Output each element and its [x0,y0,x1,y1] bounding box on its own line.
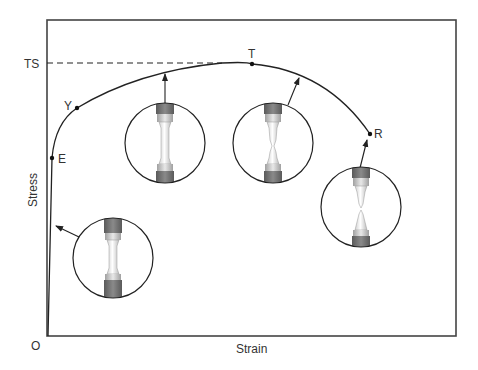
specimen-gauge [159,122,171,164]
bottom-grip [264,171,282,186]
specimen-gauge [107,240,119,274]
specimen-upper-fragment [355,186,367,208]
bottom-grip [156,171,174,186]
bottom-shoulder [265,164,281,171]
bottom-shoulder [157,164,173,171]
point-e-marker [50,156,54,160]
specimen-lower-fragment [355,210,367,230]
top-shoulder [105,233,121,240]
y-axis-title: Stress [26,173,40,207]
inset-necking [233,100,313,186]
point-y-label: Y [64,99,72,113]
inset-elastic [73,215,153,300]
top-shoulder [157,114,173,122]
point-y-marker [75,106,79,110]
top-shoulder [353,178,369,186]
point-t-marker [250,62,254,66]
arrow-elastic-to-line [56,226,79,237]
point-markers [50,62,372,160]
specimen-gauge-necked [267,122,279,164]
inset-uniform-elongation [125,100,205,186]
point-t-label: T [248,47,256,61]
top-shoulder [265,114,281,122]
bottom-grip [352,236,370,250]
x-axis-title: Strain [236,342,267,356]
point-e-label: E [58,152,66,166]
arrow-fracture-to-r [360,140,367,168]
bottom-shoulder [353,230,369,236]
point-r-marker [368,132,372,136]
origin-label: O [31,339,40,353]
stress-strain-diagram: E Y T R TS O Strain Stress [0,0,478,370]
inset-fracture [321,164,401,250]
point-r-label: R [374,127,383,141]
arrow-necking-to-curve [288,78,299,105]
top-grip [264,100,282,114]
tensile-strength-label: TS [24,57,39,71]
bottom-shoulder [105,274,121,280]
